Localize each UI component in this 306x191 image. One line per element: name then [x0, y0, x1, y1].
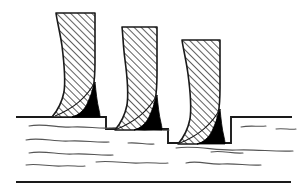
- diagram-canvas: [0, 0, 306, 191]
- wave-line: [276, 129, 296, 130]
- technical-diagram-figure: [0, 0, 306, 191]
